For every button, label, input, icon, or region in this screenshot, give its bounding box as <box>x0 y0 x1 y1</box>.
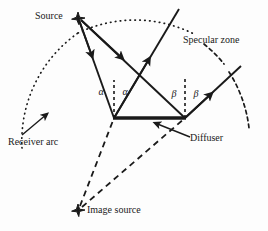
diffuser-leader <box>155 123 190 137</box>
angle-label-beta-right: β <box>193 88 199 99</box>
specular-zone-arc <box>204 44 249 128</box>
image-source-line-to-left-end <box>80 118 114 206</box>
specular-arc-segment-upper <box>204 44 224 64</box>
reflected-rays <box>114 9 241 118</box>
receiver-arc-leader-line <box>22 114 47 135</box>
physics-diagram: α α β β Source Specular zone Receiver ar… <box>0 0 268 231</box>
diffuser-leader-line <box>155 123 190 137</box>
incident-ray-right-arrow <box>81 20 122 58</box>
label-image-source: Image source <box>87 205 141 215</box>
specular-arc-segment-lower <box>229 72 249 128</box>
incident-rays <box>79 20 185 118</box>
receiver-arc-lower-dotted <box>22 33 78 148</box>
image-source-construction-lines <box>80 118 185 207</box>
receiver-arc-leader <box>22 114 47 135</box>
label-diffuser: Diffuser <box>190 133 223 143</box>
label-receiver-arc: Receiver arc <box>8 137 58 147</box>
label-source: Source <box>35 11 63 21</box>
angle-label-beta-left: β <box>171 88 177 99</box>
angle-label-alpha-right: α <box>122 86 128 97</box>
label-specular-zone: Specular zone <box>183 35 239 45</box>
angle-label-alpha-left: α <box>98 86 104 97</box>
